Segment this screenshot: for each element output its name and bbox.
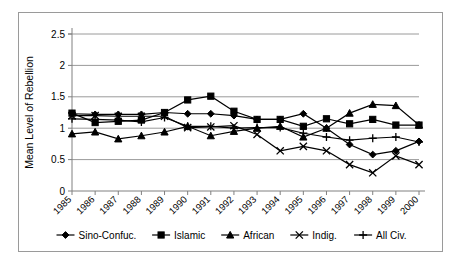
legend-label-sino-confuc: Sino-Confuc. xyxy=(79,230,137,241)
chart-frame: 00.511.522.51985198619871988198919901991… xyxy=(18,12,443,252)
series-line-islamic xyxy=(72,96,419,126)
x-tick-label-1997: 1997 xyxy=(328,194,351,217)
x-tick-label-1989: 1989 xyxy=(143,194,166,217)
x-tick-label-1991: 1991 xyxy=(189,194,212,217)
y-tick-label-0.5: 0.5 xyxy=(51,154,65,165)
y-tick-label-2: 2 xyxy=(59,60,65,71)
x-tick-label-1996: 1996 xyxy=(305,194,328,217)
series-islamic-marker-square xyxy=(208,93,214,99)
series-indig-marker-x xyxy=(253,131,260,138)
series-islamic-marker-square xyxy=(323,116,329,122)
legend-item-all-civ[interactable]: All Civ. xyxy=(354,230,406,241)
series-african-marker-triangle xyxy=(346,110,353,117)
legend-item-indig[interactable]: Indig. xyxy=(290,230,336,241)
y-tick-label-1.5: 1.5 xyxy=(51,91,65,102)
series-line-indig xyxy=(72,116,419,173)
series-indig-marker-x xyxy=(369,169,376,176)
series-all-civ-marker-plus xyxy=(322,133,330,141)
x-tick-label-1998: 1998 xyxy=(351,194,374,217)
series-sino-confuc-marker-diamond xyxy=(207,110,214,117)
x-tick-label-1988: 1988 xyxy=(120,194,143,217)
series-all-civ-marker-plus xyxy=(276,124,284,132)
series-islamic-marker-square xyxy=(393,122,399,128)
legend-label-indig: Indig. xyxy=(312,230,336,241)
series-islamic-marker-square xyxy=(277,116,283,122)
x-tick-label-2000: 2000 xyxy=(398,194,421,217)
chart-legend: Sino-Confuc.IslamicAfricanIndig.All Civ. xyxy=(57,230,407,241)
x-tick-label-1987: 1987 xyxy=(97,194,120,217)
x-tick-label-1995: 1995 xyxy=(282,194,305,217)
y-axis-title: Mean Level of Rebellion xyxy=(23,56,35,169)
series-sino-confuc-marker-diamond xyxy=(369,151,376,158)
x-tick-label-1985: 1985 xyxy=(51,194,74,217)
x-tick-label-1999: 1999 xyxy=(375,194,398,217)
legend-label-all-civ: All Civ. xyxy=(376,230,406,241)
x-tick-label-1986: 1986 xyxy=(74,194,97,217)
y-tick-label-2.5: 2.5 xyxy=(51,29,65,40)
chart-figure: 00.511.522.51985198619871988198919901991… xyxy=(0,0,458,264)
series-all-civ-marker-plus xyxy=(369,134,377,142)
legend-label-african: African xyxy=(243,230,274,241)
legend-sino-confuc-marker-diamond xyxy=(62,232,69,239)
rebellion-line-chart: 00.511.522.51985198619871988198919901991… xyxy=(19,13,442,251)
legend-item-african[interactable]: African xyxy=(221,230,274,241)
series-islamic-marker-square xyxy=(254,116,260,122)
x-tick-label-1994: 1994 xyxy=(259,194,282,217)
legend-item-sino-confuc[interactable]: Sino-Confuc. xyxy=(57,230,137,241)
series-islamic-marker-square xyxy=(185,97,191,103)
x-tick-label-1993: 1993 xyxy=(236,194,259,217)
series-line-african xyxy=(72,104,419,139)
legend-islamic-marker-square xyxy=(158,232,164,238)
x-tick-label-1992: 1992 xyxy=(213,194,236,217)
series-indig-marker-x xyxy=(415,161,422,168)
legend-label-islamic: Islamic xyxy=(174,230,205,241)
series-islamic-marker-square xyxy=(370,116,376,122)
legend-item-islamic[interactable]: Islamic xyxy=(152,230,205,241)
series-islamic xyxy=(69,93,422,129)
series-islamic-marker-square xyxy=(300,123,306,129)
series-all-civ-marker-plus xyxy=(415,138,423,146)
series-islamic-marker-square xyxy=(347,121,353,127)
series-indig-marker-x xyxy=(346,161,353,168)
x-tick-label-1990: 1990 xyxy=(166,194,189,217)
y-tick-label-1: 1 xyxy=(59,123,65,134)
series-islamic-marker-square xyxy=(231,108,237,114)
series-line-sino-confuc xyxy=(72,113,419,155)
series-all-civ-marker-plus xyxy=(392,133,400,141)
legend-all-civ-marker-plus xyxy=(359,231,367,239)
series-sino-confuc-marker-diamond xyxy=(300,110,307,117)
series-sino-confuc-marker-diamond xyxy=(184,110,191,117)
